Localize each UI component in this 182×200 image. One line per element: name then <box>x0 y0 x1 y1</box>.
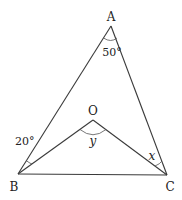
point-label-b: B <box>10 180 19 194</box>
angle-arc-oca <box>155 161 162 166</box>
angle-label-y: y <box>89 134 97 148</box>
point-label-a: A <box>106 10 116 24</box>
point-label-c: C <box>165 180 174 194</box>
angle-arc-abo <box>26 161 32 165</box>
segment-ab <box>18 26 111 174</box>
angle-label-x: x <box>149 149 156 163</box>
segment-bc <box>18 174 167 175</box>
angle-arc-a <box>104 38 118 41</box>
angle-label-abo: 20° <box>15 135 35 148</box>
segment-oc <box>93 120 167 175</box>
point-label-o: O <box>88 104 98 118</box>
geometry-diagram: A B C O 50° 20° y x <box>0 0 182 200</box>
angle-label-a: 50° <box>102 46 122 59</box>
